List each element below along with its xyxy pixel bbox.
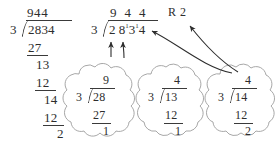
carry-mark-2: 1 [135, 22, 139, 30]
long-division-step2-rule [35, 90, 56, 91]
cloud-1-quotient: 9 [103, 74, 109, 86]
short-division-group: 9 4 4 3 2 81314 R 2 [84, 0, 194, 52]
dividend-digit-4: 4 [139, 22, 146, 37]
cloud-step-2: 4 3 13 12 1 [131, 58, 205, 142]
carry-mark-1: 1 [125, 22, 129, 30]
cloud-2-dividend: 13 [165, 91, 178, 103]
cloud-3-subtrahend: 12 [235, 109, 248, 121]
long-division-step2-subtrahend: 12 [36, 76, 49, 89]
cloud-1-dividend: 28 [93, 91, 106, 103]
long-division-step1-rule [27, 55, 48, 56]
long-division-step2-remainder: 14 [44, 93, 57, 106]
cloud-2-remainder: 1 [175, 125, 181, 137]
cloud-2-quotient: 4 [174, 74, 180, 86]
cloud-3-remainder: 2 [245, 125, 251, 137]
long-division-vinculum [26, 20, 72, 21]
cloud-2-subtrahend: 12 [165, 109, 178, 121]
cloud-3-divisor: 3 [218, 91, 224, 103]
short-division-dividend: 2 81314 [109, 23, 145, 36]
long-division-step3-subtrahend: 12 [44, 111, 57, 124]
short-division-vinculum [108, 20, 158, 21]
cloud-2-divisor: 3 [148, 91, 154, 103]
cloud-step-1: 9 3 28 27 1 [58, 58, 136, 142]
diagram-canvas: 944 3 2834 27 13 12 14 12 2 9 4 4 3 2 81… [0, 0, 280, 142]
cloud-3-quotient: 4 [245, 74, 251, 86]
long-division-divisor: 3 [10, 23, 17, 36]
cloud-step-3: 4 3 14 12 2 [200, 58, 276, 142]
short-division-divisor: 3 [91, 23, 98, 36]
short-division-quotient: 9 4 4 [110, 6, 148, 19]
cloud-1-remainder: 1 [103, 125, 109, 137]
cloud-1-subtrahend: 27 [93, 109, 106, 121]
cloud-3-dividend: 14 [235, 91, 248, 103]
short-division-remainder-label: R 2 [168, 6, 187, 18]
cloud-1-divisor: 3 [76, 91, 82, 103]
long-division-step1-remainder: 13 [36, 58, 49, 71]
long-division-quotient: 944 [27, 6, 48, 19]
long-division-dividend: 2834 [28, 23, 55, 36]
long-division-step1-subtrahend: 27 [28, 41, 41, 54]
